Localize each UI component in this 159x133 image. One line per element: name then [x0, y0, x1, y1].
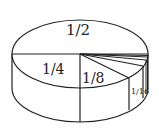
- label-eighth: 1/8: [82, 70, 105, 86]
- pie-cylinder-diagram: 1/2 1/4 1/8 1/16: [0, 0, 159, 133]
- label-sixteenth: 1/16: [131, 87, 149, 96]
- label-half: 1/2: [66, 21, 90, 39]
- label-quarter: 1/4: [42, 61, 65, 77]
